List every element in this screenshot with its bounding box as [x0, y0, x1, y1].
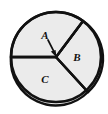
- circle-sector-diagram: A B C: [0, 0, 108, 114]
- pie-diagram-svg: A B C: [0, 0, 108, 114]
- sector-c-label: C: [41, 73, 49, 85]
- sector-a-label: A: [40, 29, 48, 41]
- sector-b-label: B: [72, 51, 80, 63]
